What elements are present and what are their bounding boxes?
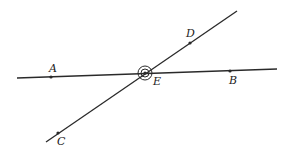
geometry-diagram: A B C D E [0,0,292,150]
point-a [49,75,52,78]
label-d: D [185,27,195,40]
point-e [143,71,146,74]
point-b [228,69,231,72]
label-a: A [48,62,57,75]
label-e: E [152,75,161,88]
point-d [188,41,191,44]
label-b: B [228,74,237,87]
label-c: C [57,135,66,148]
